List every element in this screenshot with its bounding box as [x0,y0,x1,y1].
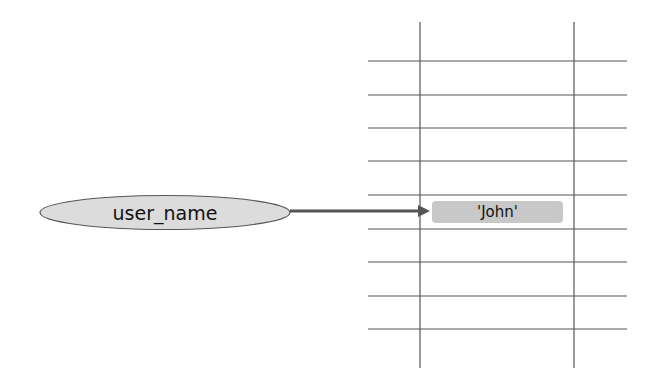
arrow-head-icon [418,205,430,217]
diagram-canvas [0,0,655,388]
variable-name-label: user_name [40,195,290,231]
value-label: 'John' [432,201,563,223]
memory-grid [368,22,627,368]
